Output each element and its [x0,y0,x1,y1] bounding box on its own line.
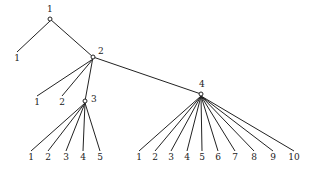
leaf-edge [31,103,85,151]
node-marker [83,99,87,103]
leaf-edge [66,103,85,151]
leaf-label: 1 [136,152,142,162]
leaf-label: 4 [80,152,86,162]
tree-edge [93,57,201,94]
tree-diagram: 11212345123456789101234 [0,0,314,178]
leaf-edge [139,96,201,151]
leaf-label: 10 [288,152,300,162]
leaf-label: 1 [34,97,40,107]
leaf-edge [37,59,93,96]
leaf-edge [85,103,100,151]
leaf-label: 7 [232,152,238,162]
node-label: 4 [199,79,205,89]
node-marker [91,55,95,59]
leaf-edge [201,96,235,151]
leaf-label: 8 [251,152,257,162]
leaf-edge [201,96,254,151]
node-label: 1 [47,4,53,14]
leaf-edge [201,96,202,151]
leaf-edge [48,103,85,151]
node-marker [199,92,203,96]
leaf-label: 3 [63,152,69,162]
leaf-edge [17,21,50,52]
leaf-label: 2 [152,152,158,162]
leaf-edge [83,103,85,151]
leaf-label: 1 [28,152,34,162]
leaf-label: 1 [14,53,20,63]
leaf-label: 5 [199,152,205,162]
tree-edges [17,19,294,151]
tree-edge [50,19,93,57]
leaf-label: 2 [59,97,65,107]
leaf-label: 2 [45,152,51,162]
node-label: 3 [91,94,97,104]
leaf-edge [201,96,273,151]
leaf-label: 4 [184,152,190,162]
leaf-edge [171,96,201,151]
leaf-edge [62,59,93,96]
tree-nodes [48,17,203,103]
leaf-label: 3 [168,152,174,162]
leaf-label: 5 [97,152,103,162]
leaf-label: 6 [215,152,221,162]
leaf-label: 9 [270,152,276,162]
node-marker [48,17,52,21]
node-label: 2 [98,46,104,56]
